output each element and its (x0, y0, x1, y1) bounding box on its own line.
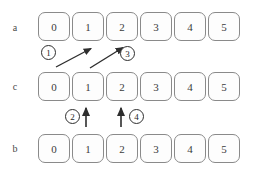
cell-b-3[interactable]: 3 (140, 134, 172, 163)
array-row-a: 0 1 2 3 4 5 (38, 12, 240, 41)
cell-b-2[interactable]: 2 (106, 134, 138, 163)
cell-b-5[interactable]: 5 (208, 134, 240, 163)
cell-a-0[interactable]: 0 (38, 12, 70, 41)
cell-b-4[interactable]: 4 (174, 134, 206, 163)
cell-c-2[interactable]: 2 (106, 72, 138, 101)
array-row-c: 0 1 2 3 4 5 (38, 72, 240, 101)
cell-c-0[interactable]: 0 (38, 72, 70, 101)
cell-b-0[interactable]: 0 (38, 134, 70, 163)
figure-canvas: a 0 1 2 3 4 5 c 0 1 2 3 4 5 b 0 1 2 3 4 … (0, 0, 257, 176)
step-badge-1[interactable]: 1 (41, 45, 56, 60)
diagonal-arrow-step-3 (90, 48, 123, 69)
cell-a-1[interactable]: 1 (72, 12, 104, 41)
step-badge-2[interactable]: 2 (65, 109, 80, 124)
row-label-b: b (8, 143, 22, 154)
row-label-a: a (8, 22, 22, 33)
cell-a-3[interactable]: 3 (140, 12, 172, 41)
step-badge-4[interactable]: 4 (129, 109, 144, 124)
row-label-c: c (8, 81, 22, 92)
cell-c-3[interactable]: 3 (140, 72, 172, 101)
cell-b-1[interactable]: 1 (72, 134, 104, 163)
array-row-b: 0 1 2 3 4 5 (38, 134, 240, 163)
diagonal-arrow-step-1 (56, 49, 91, 68)
cell-c-4[interactable]: 4 (174, 72, 206, 101)
cell-c-1[interactable]: 1 (72, 72, 104, 101)
cell-a-5[interactable]: 5 (208, 12, 240, 41)
cell-a-2[interactable]: 2 (106, 12, 138, 41)
cell-c-5[interactable]: 5 (208, 72, 240, 101)
cell-a-4[interactable]: 4 (174, 12, 206, 41)
step-badge-3[interactable]: 3 (120, 46, 135, 61)
